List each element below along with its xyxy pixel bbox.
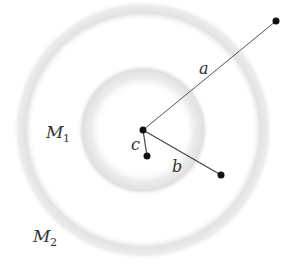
shell-diagram: a b c M 1 M 2 bbox=[0, 0, 283, 268]
label-m1: M bbox=[45, 122, 64, 142]
label-m2-subscript: 2 bbox=[50, 236, 57, 249]
point-c bbox=[144, 153, 151, 160]
label-b: b bbox=[172, 157, 182, 176]
center-point bbox=[140, 127, 147, 134]
label-a: a bbox=[199, 59, 209, 78]
label-c: c bbox=[131, 135, 140, 154]
point-a bbox=[273, 18, 280, 25]
label-m1-subscript: 1 bbox=[63, 132, 70, 145]
label-m2: M bbox=[32, 226, 51, 246]
point-b bbox=[218, 172, 225, 179]
